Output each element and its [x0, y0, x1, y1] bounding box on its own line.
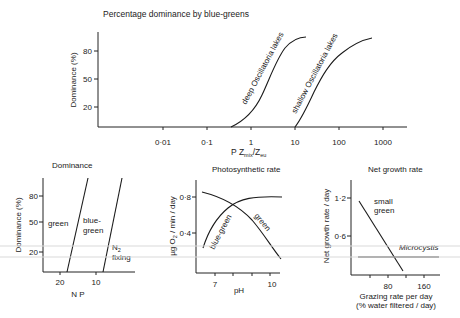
green-curve-label: green [252, 212, 272, 233]
bm-x-tick-label: 10 [268, 280, 277, 289]
bl-y-tick-label: 50 [29, 218, 38, 227]
top-x-tick-label: 1 [249, 138, 254, 147]
bl-y-tick-label: 80 [29, 192, 38, 201]
top-y-tick-label: 50 [83, 75, 92, 84]
bluegreen-curve-label: blue-green [208, 213, 234, 251]
top-y-tick-label: 20 [83, 103, 92, 112]
photosynthetic-rate-chart: Photosynthetic rate 0·8 0·4 µg O2 / min … [168, 165, 282, 295]
bluegreen-region-label: blue- [83, 216, 101, 225]
net-growth-rate-chart: Net growth rate 1·2 0·6 Net growth rate … [322, 165, 440, 310]
bm-x-tick-label: 7 [213, 280, 218, 289]
br-x-axis-label: (% water filtered / day) [356, 301, 436, 310]
top-chart-title: Percentage dominance by blue-greens [103, 9, 249, 19]
bl-x-tick-label: 20 [56, 278, 65, 287]
microcystis-label: Microcystis [399, 243, 439, 252]
small-green-label: small [374, 197, 393, 206]
top-x-axis-label: P Zmix/Zeu [231, 147, 266, 158]
br-y-axis-label: Net growth rate / day [322, 189, 331, 263]
dominance-np-chart: Dominance 80 50 20 Dominance (%) 20 10 N… [14, 161, 135, 299]
bm-y-axis-label: µg O2 / min / day [168, 196, 178, 256]
top-x-tick-label: 0·01 [155, 138, 172, 147]
figure-canvas: Percentage dominance by blue-greens 80 5… [0, 0, 460, 318]
small-green-label: green [374, 206, 394, 215]
green-bluegreen-boundary [67, 178, 88, 272]
top-x-tick-label: 10 [291, 138, 300, 147]
bm-y-tick-label: 0·8 [179, 193, 191, 202]
br-title: Net growth rate [368, 165, 423, 174]
bl-y-axis-label: Dominance (%) [14, 197, 23, 252]
bl-x-axis-label: N P [71, 290, 84, 299]
bm-y-tick-label: 0·4 [179, 229, 191, 238]
br-x-tick-label: 160 [417, 282, 431, 291]
bl-y-tick-label: 20 [29, 248, 38, 257]
bm-title: Photosynthetic rate [212, 165, 281, 174]
top-x-tick-label: 0·1 [201, 138, 213, 147]
top-y-tick-label: 80 [83, 47, 92, 56]
bl-x-tick-label: 10 [92, 278, 101, 287]
bl-title: Dominance [52, 161, 93, 170]
bm-x-axis-label: pH [234, 286, 244, 295]
top-x-tick-label: 100 [332, 138, 346, 147]
shallow-oscillatoria-label: shallow Oscillatoria lakes [290, 32, 340, 115]
top-y-axis-label: Dominance (%) [69, 52, 78, 107]
top-chart: Percentage dominance by blue-greens 80 5… [69, 9, 407, 158]
bluegreen-region-label: green [83, 226, 103, 235]
top-x-tick-label: 1000 [374, 138, 392, 147]
br-y-tick-label: 0·6 [334, 232, 346, 241]
br-x-tick-label: 80 [384, 282, 393, 291]
green-region-label: green [48, 219, 68, 228]
br-y-tick-label: 1·2 [334, 194, 346, 203]
n2-fixing-label: N2 [112, 243, 121, 253]
br-x-axis-label: Grazing rate per day [360, 292, 433, 301]
